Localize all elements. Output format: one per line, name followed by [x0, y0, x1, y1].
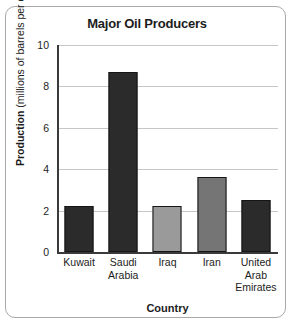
x-tick-label-line: Iran [190, 256, 234, 269]
bar-slot [57, 45, 101, 252]
x-tick-label-line: Arabia [101, 269, 145, 282]
x-tick-label: SaudiArabia [101, 256, 145, 281]
x-tick-label-line: Iraq [145, 256, 189, 269]
x-tick-label: Kuwait [57, 256, 101, 269]
x-tick-label-line: Emirates [234, 281, 278, 294]
x-tick-label: UnitedArabEmirates [234, 256, 278, 294]
y-tick-label: 2 [22, 205, 53, 217]
bar-series [57, 45, 278, 252]
x-tick-label-line: Kuwait [57, 256, 101, 269]
chart-title: Major Oil Producers [0, 16, 294, 31]
x-tick-label-line: United [234, 256, 278, 269]
bar-iraq[interactable] [153, 206, 182, 252]
x-tick-label-line: Saudi [101, 256, 145, 269]
y-tick-label: 0 [22, 246, 53, 258]
x-tick-label-line: Arab [234, 269, 278, 282]
y-axis-title-regular: (millions of barrels per day) [14, 0, 26, 111]
bar-slot [190, 45, 234, 252]
bar-iran[interactable] [197, 177, 226, 252]
x-tick-label: Iran [190, 256, 234, 269]
y-axis-title: Production (millions of barrels per day) [14, 0, 30, 166]
bar-kuwait[interactable] [65, 206, 94, 252]
bar-united-arab-emirates[interactable] [241, 200, 270, 252]
bar-saudi-arabia[interactable] [109, 72, 138, 252]
bar-slot [101, 45, 145, 252]
y-axis-title-bold: Production [14, 111, 26, 166]
bar-slot [234, 45, 278, 252]
x-tick-label: Iraq [145, 256, 189, 269]
x-axis-title: Country [57, 302, 278, 314]
gridline-0 [57, 252, 278, 254]
bar-slot [145, 45, 189, 252]
chart-figure: Major Oil Producers 0246810 Production (… [0, 0, 294, 335]
